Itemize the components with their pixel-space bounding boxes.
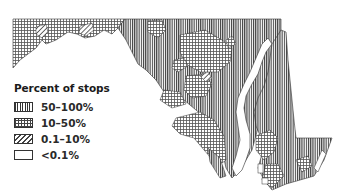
map-legend: Percent of stops 50–100% 10–50% 0.1–10% … bbox=[14, 82, 110, 163]
legend-label: 50–100% bbox=[41, 101, 93, 113]
legend-title: Percent of stops bbox=[14, 82, 110, 94]
blank-swatch-icon bbox=[14, 150, 33, 160]
legend-item-10-50: 10–50% bbox=[14, 115, 110, 131]
legend-item-50-100: 50–100% bbox=[14, 99, 110, 115]
legend-item-0-1-10: 0.1–10% bbox=[14, 131, 110, 147]
vertical-hatch-swatch-icon bbox=[14, 102, 33, 112]
diagonal-hatch-swatch-icon bbox=[14, 134, 33, 144]
legend-label: 10–50% bbox=[41, 117, 86, 129]
grid-hatch-swatch-icon bbox=[14, 118, 33, 128]
legend-label: 0.1–10% bbox=[41, 133, 90, 145]
central-region bbox=[118, 19, 281, 178]
legend-item-under-0-1: <0.1% bbox=[14, 147, 110, 163]
legend-label: <0.1% bbox=[41, 149, 79, 161]
western-region bbox=[13, 19, 125, 68]
